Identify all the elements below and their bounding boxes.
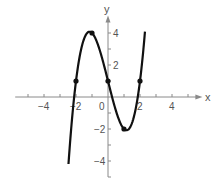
y-tick-label: 4 (113, 28, 119, 39)
y-tick-label: 2 (113, 60, 119, 71)
data-point (73, 78, 78, 83)
data-point (105, 78, 110, 83)
data-point (137, 78, 142, 83)
function-graph: −4−202442−2−4 x y (0, 0, 223, 190)
x-tick-label: 0 (99, 101, 105, 112)
y-tick-label: −2 (94, 124, 106, 135)
x-tick-label: −4 (38, 101, 50, 112)
y-tick-label: −4 (94, 156, 106, 167)
function-curve (68, 32, 144, 164)
data-point (89, 30, 94, 35)
x-axis-label: x (205, 91, 211, 103)
y-axis-label: y (104, 3, 110, 15)
x-tick-label: 4 (169, 101, 175, 112)
data-point (121, 126, 126, 131)
x-axis (15, 94, 202, 100)
y-axis (106, 15, 112, 177)
